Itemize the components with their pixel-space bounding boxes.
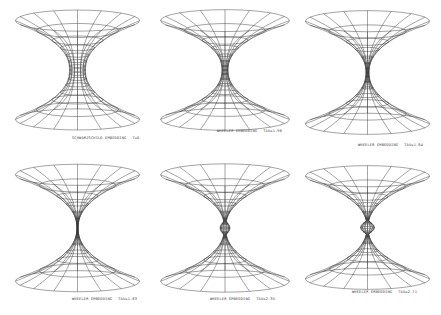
embedding-panel — [155, 158, 295, 298]
caption-param: T=0 — [132, 136, 139, 140]
panel-caption: WHEELER EMBEDDINGTAU=2.71 — [352, 290, 423, 294]
caption-label: WHEELER EMBEDDING — [210, 297, 250, 301]
caption-label: SCHWARZSCHILD EMBEDDING — [72, 136, 126, 140]
embedding-panel — [155, 5, 295, 135]
caption-label: WHEELER EMBEDDING — [72, 297, 112, 301]
caption-param: TAU=2.35 — [256, 297, 275, 301]
embedding-panel — [300, 160, 435, 295]
panel-caption: WHEELER EMBEDDINGTAU=2.35 — [210, 297, 281, 301]
wireframe-surface — [10, 5, 145, 135]
wireframe-surface — [10, 158, 145, 298]
embedding-panel — [10, 5, 145, 135]
panel-caption: WHEELER EMBEDDINGTAU=1.83 — [72, 297, 143, 301]
panel-caption: SCHWARZSCHILD EMBEDDINGT=0 — [72, 136, 145, 140]
embedding-panel — [300, 5, 435, 140]
wireframe-surface — [300, 5, 435, 140]
wireframe-surface — [300, 160, 435, 295]
caption-label: WHEELER EMBEDDING — [217, 129, 257, 133]
caption-param: TAU=2.71 — [398, 290, 417, 294]
caption-param: TAU=1.64 — [404, 143, 423, 147]
caption-param: TAU=1.96 — [263, 129, 282, 133]
caption-label: WHEELER EMBEDDING — [358, 143, 398, 147]
embedding-panel — [10, 158, 145, 298]
caption-label: WHEELER EMBEDDING — [352, 290, 392, 294]
wireframe-surface — [155, 158, 295, 298]
panel-caption: WHEELER EMBEDDINGTAU=1.64 — [358, 143, 429, 147]
caption-param: TAU=1.83 — [118, 297, 137, 301]
panel-caption: WHEELER EMBEDDINGTAU=1.96 — [217, 129, 288, 133]
wireframe-surface — [155, 5, 295, 135]
